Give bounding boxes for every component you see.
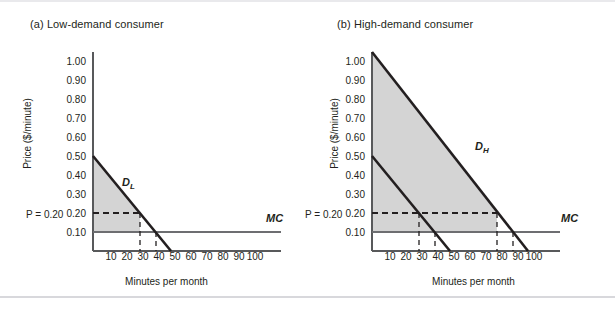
two-part-tariff-figure: (a) Low-demand consumer Price ($/minute)… xyxy=(0,0,615,296)
panel-high-demand-consumer: (b) High-demand consumer Price ($/minute… xyxy=(307,0,614,296)
panel-a-plot-svg xyxy=(0,0,307,296)
panel-a-price-band-region xyxy=(93,213,140,232)
panel-b-plot-svg xyxy=(307,0,614,296)
bottom-divider-rule xyxy=(0,296,615,298)
panel-b-price-band-region xyxy=(372,213,497,232)
panel-low-demand-consumer: (a) Low-demand consumer Price ($/minute)… xyxy=(0,0,307,296)
